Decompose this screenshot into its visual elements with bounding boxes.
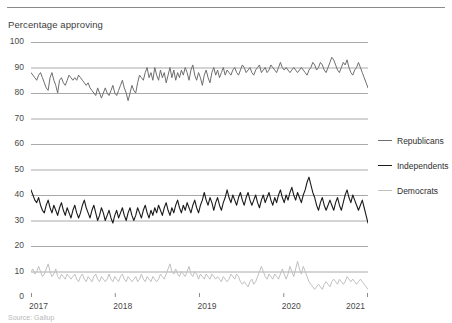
y-tick-label: 100 (0, 36, 24, 46)
legend-item-label: Independents (397, 161, 449, 171)
chart-figure: Percentage approving 0102030405060708090… (0, 0, 452, 323)
legend-line-swatch (378, 140, 392, 141)
x-tick-label: 2021 (346, 301, 365, 311)
legend-item-label: Republicans (397, 136, 444, 146)
legend-line-swatch (378, 165, 392, 166)
chart-legend: RepublicansIndependentsDemocrats (378, 128, 452, 203)
y-axis-title: Percentage approving (8, 19, 103, 30)
y-tick-label: 20 (0, 240, 24, 250)
legend-item-republicans[interactable]: Republicans (378, 128, 452, 153)
y-tick-label: 50 (0, 164, 24, 174)
legend-item-democrats[interactable]: Democrats (378, 178, 452, 203)
series-line-independents (31, 177, 368, 223)
y-tick-label: 90 (0, 62, 24, 72)
x-tick-label: 2018 (113, 301, 132, 311)
legend-item-label: Democrats (397, 186, 438, 196)
source-note: Source: Gallup (8, 314, 54, 321)
y-tick-label: 70 (0, 113, 24, 123)
x-tick-label: 2020 (282, 301, 301, 311)
y-tick-label: 0 (0, 291, 24, 301)
y-tick-label: 40 (0, 189, 24, 199)
series-line-republicans (31, 57, 368, 100)
y-tick-label: 80 (0, 87, 24, 97)
plot-area (31, 42, 368, 297)
y-tick-label: 10 (0, 266, 24, 276)
legend-item-independents[interactable]: Independents (378, 153, 452, 178)
series-line-democrats (31, 261, 368, 289)
legend-line-swatch (378, 190, 392, 191)
y-tick-label: 30 (0, 215, 24, 225)
header-divider (7, 7, 445, 8)
x-tick-label: 2017 (29, 301, 48, 311)
line-chart-svg (31, 42, 368, 297)
x-tick-label: 2019 (198, 301, 217, 311)
y-tick-label: 60 (0, 138, 24, 148)
